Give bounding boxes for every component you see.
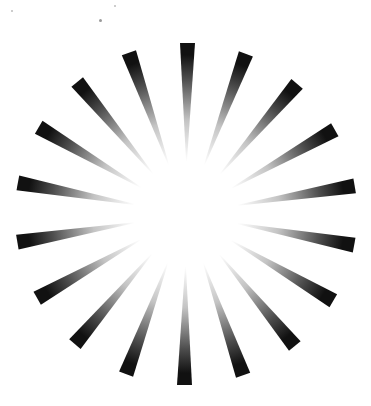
ray-5 (237, 178, 356, 205)
ray-15 (17, 176, 135, 205)
speck-1 (11, 10, 13, 12)
ray-16 (35, 121, 141, 188)
ray-7 (231, 240, 338, 307)
ray-10 (177, 266, 192, 385)
ray-4 (231, 123, 338, 188)
ray-1 (180, 43, 195, 162)
ray-6 (237, 223, 355, 252)
ray-13 (34, 239, 141, 304)
speck-2 (99, 19, 102, 22)
ray-group (16, 43, 356, 385)
speck-3 (114, 5, 116, 7)
ray-14 (16, 222, 135, 249)
sunburst-graphic (0, 0, 371, 406)
